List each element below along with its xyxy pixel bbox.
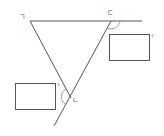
angle-arc-bottom (61, 89, 66, 104)
vertex-label-bottom: ㄴ (72, 97, 78, 104)
vertex-label-top-right: ㄷ (107, 10, 113, 17)
answer-box-right[interactable] (110, 35, 150, 61)
answer-box-left[interactable] (16, 84, 56, 110)
degree-unit-left: ° (57, 83, 60, 89)
right-line (54, 21, 111, 126)
degree-unit-right: ° (151, 34, 154, 40)
vertex-label-top-left: ㄱ (19, 14, 25, 21)
